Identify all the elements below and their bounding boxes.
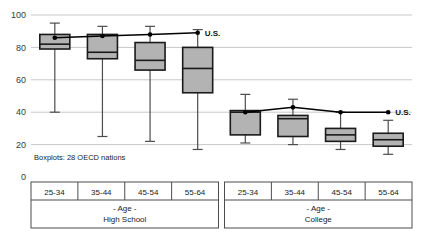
us-marker-college-35-44 bbox=[291, 105, 296, 110]
us-marker-high-school-45-54 bbox=[148, 32, 153, 37]
us-marker-high-school-25-34 bbox=[53, 35, 58, 40]
axis-group-header-0: - Age - bbox=[113, 204, 137, 213]
us-marker-college-45-54 bbox=[338, 110, 343, 115]
boxplot-high-school-45-54 bbox=[135, 26, 165, 141]
us-marker-college-55-64 bbox=[386, 110, 391, 115]
axis-category-label-college-55-64: 55-64 bbox=[378, 188, 399, 197]
boxplot-college-45-54 bbox=[326, 112, 356, 149]
boxplot-high-school-55-64 bbox=[183, 30, 213, 150]
boxplot-college-55-64 bbox=[373, 120, 403, 154]
box-iqr bbox=[183, 47, 213, 92]
us-label-college: U.S. bbox=[395, 108, 411, 117]
boxplot-college-25-34 bbox=[230, 94, 260, 143]
axis-category-label-college-35-44: 35-44 bbox=[285, 188, 306, 197]
us-line-college bbox=[245, 107, 388, 112]
category-axis-block-college: 25-3435-4445-5455-64- Age -College bbox=[225, 182, 413, 228]
y-axis-tick-100: 100 bbox=[11, 10, 26, 20]
y-axis-tick-40: 40 bbox=[16, 107, 26, 117]
chart-annotation-note: Boxplots: 28 OECD nations bbox=[34, 153, 126, 162]
y-axis-tick-0: 0 bbox=[21, 172, 26, 182]
axis-category-label-high-school-35-44: 35-44 bbox=[91, 188, 112, 197]
us-marker-college-25-34 bbox=[243, 110, 248, 115]
us-line-high-school bbox=[55, 33, 198, 38]
axis-category-label-high-school-45-54: 45-54 bbox=[138, 188, 159, 197]
axis-category-label-high-school-25-34: 25-34 bbox=[44, 188, 65, 197]
axis-group-label-high-school: High School bbox=[103, 215, 146, 224]
us-marker-high-school-55-64 bbox=[195, 31, 200, 36]
category-axis-block-high-school: 25-3435-4445-5455-64- Age -High School bbox=[31, 182, 219, 228]
us-label-high-school: U.S. bbox=[205, 29, 221, 38]
box-iqr bbox=[135, 43, 165, 71]
axis-group-header-1: - Age - bbox=[306, 204, 330, 213]
y-axis-tick-60: 60 bbox=[16, 75, 26, 85]
axis-group-label-college: College bbox=[305, 215, 333, 224]
y-axis-tick-20: 20 bbox=[16, 140, 26, 150]
axis-category-label-high-school-55-64: 55-64 bbox=[185, 188, 206, 197]
chart-canvas: 020406080100U.S.U.S.Boxplots: 28 OECD na… bbox=[0, 0, 424, 236]
axis-category-label-college-25-34: 25-34 bbox=[238, 188, 259, 197]
boxplot-high-school-35-44 bbox=[87, 26, 117, 136]
us-marker-high-school-35-44 bbox=[100, 34, 105, 39]
y-axis-tick-80: 80 bbox=[16, 43, 26, 53]
axis-category-label-college-45-54: 45-54 bbox=[331, 188, 352, 197]
boxplot-chart-figure: 020406080100U.S.U.S.Boxplots: 28 OECD na… bbox=[0, 0, 424, 236]
